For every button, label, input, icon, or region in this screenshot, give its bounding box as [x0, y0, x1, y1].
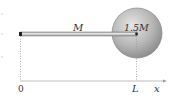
disk-mass-label: 1.5M [124, 23, 149, 33]
L-label: L [132, 84, 139, 94]
x-axis-label: x [154, 84, 160, 94]
diagram-canvas [0, 0, 174, 102]
rod-left-end-marker [19, 32, 22, 36]
rod-mass-label: M [73, 23, 83, 33]
origin-label: 0 [18, 85, 24, 94]
left-tick-marks [1, 14, 3, 57]
x-axis-arrowhead [163, 80, 167, 83]
rod-right-end-marker [135, 33, 138, 36]
